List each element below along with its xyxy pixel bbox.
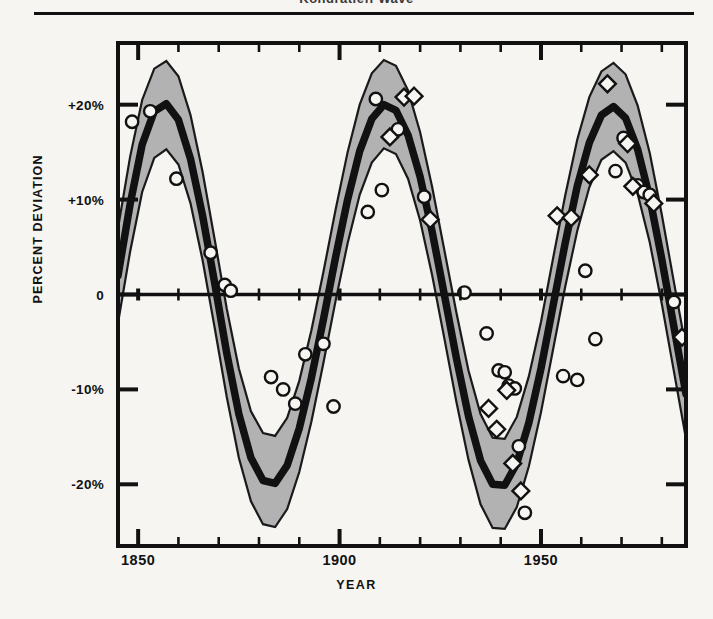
x-tick-label: 1850 bbox=[98, 552, 178, 568]
data-point-circle bbox=[418, 191, 430, 203]
y-tick-label: -20% bbox=[32, 477, 104, 492]
data-point-circle bbox=[204, 247, 216, 259]
data-point-circle bbox=[519, 507, 531, 519]
data-point-circle bbox=[609, 165, 621, 177]
data-point-circle bbox=[557, 370, 569, 382]
y-tick-label: -10% bbox=[32, 382, 104, 397]
figure-root: Kondratieff Wave PERCENT DEVIATION YEAR … bbox=[0, 0, 713, 619]
y-tick-label: 0 bbox=[32, 287, 104, 302]
data-point-circle bbox=[571, 374, 583, 386]
data-point-circle bbox=[317, 338, 329, 350]
data-point-circle bbox=[579, 265, 591, 277]
data-point-circle bbox=[480, 327, 492, 339]
data-point-diamond bbox=[480, 400, 497, 417]
data-point-circle bbox=[376, 184, 388, 196]
data-point-circle bbox=[327, 400, 339, 412]
data-point-circle bbox=[126, 116, 138, 128]
data-point-circle bbox=[362, 206, 374, 218]
data-point-circle bbox=[513, 440, 525, 452]
data-point-circle bbox=[170, 173, 182, 185]
y-tick-label: +10% bbox=[32, 192, 104, 207]
data-point-circle bbox=[370, 93, 382, 105]
data-point-circle bbox=[289, 397, 301, 409]
x-tick-label: 1950 bbox=[501, 552, 581, 568]
data-point-circle bbox=[144, 105, 156, 117]
x-tick-label: 1900 bbox=[300, 552, 380, 568]
chart-canvas bbox=[0, 0, 713, 619]
y-tick-label: +20% bbox=[32, 97, 104, 112]
data-point-circle bbox=[265, 371, 277, 383]
data-point-circle bbox=[499, 366, 511, 378]
data-point-circle bbox=[668, 296, 680, 308]
data-point-circle bbox=[589, 333, 601, 345]
data-point-circle bbox=[277, 383, 289, 395]
data-point-circle bbox=[299, 348, 311, 360]
data-point-circle bbox=[225, 285, 237, 297]
